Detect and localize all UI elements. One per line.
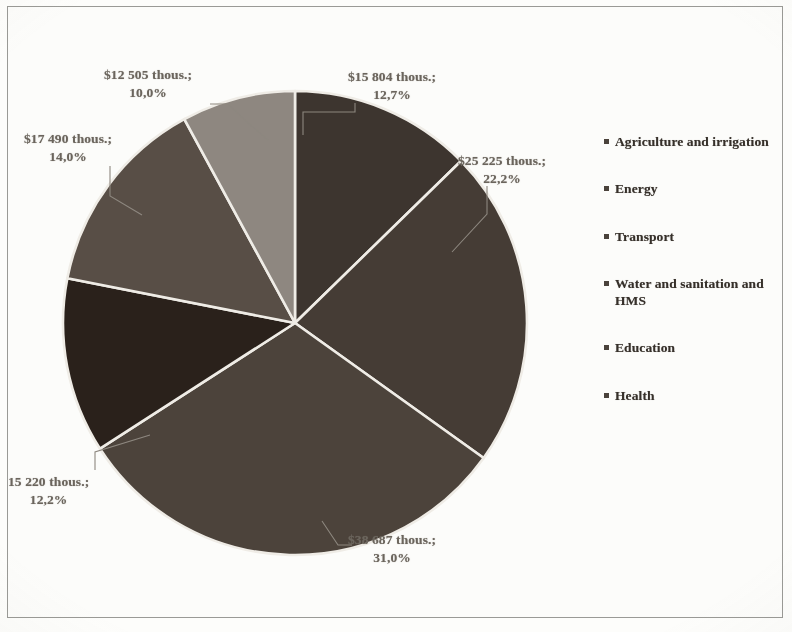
slice-label-transport-value: $38 687 thous.; bbox=[348, 531, 436, 549]
legend-item-label: Agriculture and irrigation bbox=[615, 133, 769, 150]
legend-item-label: Education bbox=[615, 339, 675, 356]
slice-label-energy-value: $25 225 thous.; bbox=[458, 152, 546, 170]
legend-item-label: Energy bbox=[615, 180, 658, 197]
slice-label-water-value: 15 220 thous.; bbox=[8, 473, 89, 491]
slice-label-education: $17 490 thous.; 14,0% bbox=[24, 130, 112, 165]
slice-label-transport: $38 687 thous.; 31,0% bbox=[348, 531, 436, 566]
slice-label-education-percent: 14,0% bbox=[24, 148, 112, 166]
slice-label-energy: $25 225 thous.; 22,2% bbox=[458, 152, 546, 187]
slice-label-agriculture-percent: 12,7% bbox=[348, 86, 436, 104]
legend-item: Education bbox=[604, 339, 782, 356]
slice-label-water-percent: 12,2% bbox=[8, 491, 89, 509]
slice-label-energy-percent: 22,2% bbox=[458, 170, 546, 188]
chart-legend: Agriculture and irrigationEnergyTranspor… bbox=[604, 133, 782, 434]
slice-label-transport-percent: 31,0% bbox=[348, 549, 436, 567]
scanned-page: $15 804 thous.; 12,7% $25 225 thous.; 22… bbox=[0, 0, 792, 632]
slice-label-health-value: $12 505 thous.; bbox=[104, 66, 192, 84]
slice-label-agriculture: $15 804 thous.; 12,7% bbox=[348, 68, 436, 103]
legend-item-label: Health bbox=[615, 387, 655, 404]
slice-label-water: 15 220 thous.; 12,2% bbox=[8, 473, 89, 508]
slice-label-health: $12 505 thous.; 10,0% bbox=[104, 66, 192, 101]
legend-item: Energy bbox=[604, 180, 782, 197]
legend-bullet-icon bbox=[604, 281, 609, 286]
legend-bullet-icon bbox=[604, 345, 609, 350]
legend-bullet-icon bbox=[604, 393, 609, 398]
legend-item: Transport bbox=[604, 228, 782, 245]
legend-bullet-icon bbox=[604, 186, 609, 191]
legend-bullet-icon bbox=[604, 139, 609, 144]
legend-item: Health bbox=[604, 387, 782, 404]
legend-item: Agriculture and irrigation bbox=[604, 133, 782, 150]
legend-item: Water and sanitation and HMS bbox=[604, 275, 782, 310]
slice-label-agriculture-value: $15 804 thous.; bbox=[348, 68, 436, 86]
slice-label-health-percent: 10,0% bbox=[104, 84, 192, 102]
legend-item-label: Water and sanitation and HMS bbox=[615, 275, 782, 310]
legend-item-label: Transport bbox=[615, 228, 674, 245]
slice-label-education-value: $17 490 thous.; bbox=[24, 130, 112, 148]
legend-bullet-icon bbox=[604, 234, 609, 239]
